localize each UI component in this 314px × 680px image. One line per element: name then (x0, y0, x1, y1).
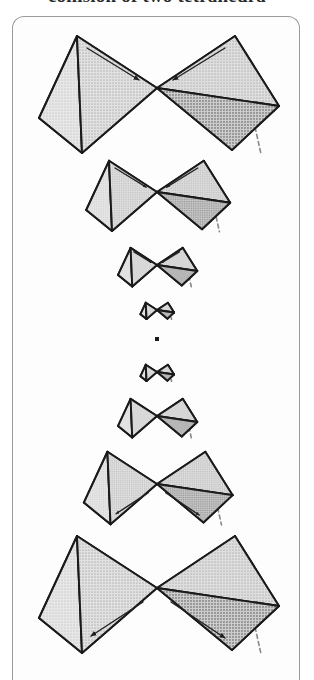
left-face-front-tex-1 (77, 36, 157, 153)
right-tetrahedron-6 (157, 365, 174, 382)
right-tetrahedron-1 (157, 36, 279, 154)
left-tetrahedron-7 (118, 399, 157, 438)
left-face-front-tex-9 (77, 536, 157, 653)
right-tetrahedron-7 (157, 399, 197, 438)
tetrahedron-pair-1 (39, 36, 279, 154)
tetrahedron-pair-9 (39, 536, 279, 654)
singular-point-marker (155, 337, 159, 341)
tetrahedron-pair-4 (140, 303, 174, 320)
left-face-front-tex-8 (107, 452, 157, 525)
right-tetrahedron-4 (157, 303, 174, 320)
right-tetrahedron-2 (157, 161, 230, 232)
left-face-front-tex-3 (131, 248, 157, 287)
left-face-front-tex-2 (109, 161, 157, 231)
left-tetrahedron-6 (140, 365, 157, 381)
right-tetrahedron-8 (157, 452, 233, 525)
left-edge-top-bot-6 (146, 365, 147, 381)
left-face-front-tex-7 (131, 399, 157, 438)
left-edge-top-bot-4 (146, 303, 147, 319)
left-tetrahedron-1 (39, 36, 157, 153)
right-tetrahedron-9 (157, 536, 279, 654)
tetrahedron-pair-2 (86, 161, 230, 232)
tetrahedron-pair-6 (140, 365, 174, 382)
left-tetrahedron-4 (140, 303, 157, 319)
left-tetrahedron-9 (39, 536, 157, 653)
tetrahedron-pair-3 (118, 248, 197, 287)
tetrahedron-pair-7 (118, 399, 197, 438)
left-tetrahedron-8 (84, 452, 157, 525)
frames-group (39, 36, 279, 654)
tetrahedron-pair-8 (84, 452, 233, 525)
